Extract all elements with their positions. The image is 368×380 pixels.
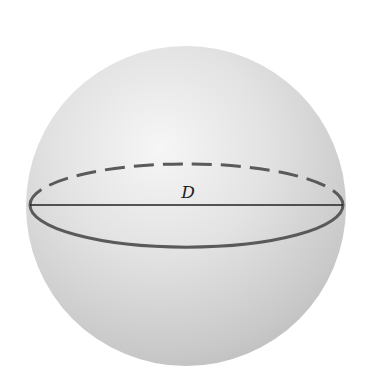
diameter-label: D bbox=[180, 182, 195, 202]
sphere-diagram: D bbox=[0, 0, 368, 380]
sphere-body bbox=[26, 46, 346, 366]
